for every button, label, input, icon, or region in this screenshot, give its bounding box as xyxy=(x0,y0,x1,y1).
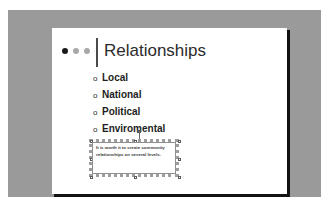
slide-bullet-list: o Local o National o Political o Envirom… xyxy=(93,71,273,139)
bullet-marker-icon: o xyxy=(93,106,102,119)
callout-text-box[interactable]: It is worth it to create community relat… xyxy=(92,142,176,174)
resize-handle-e[interactable] xyxy=(178,158,181,161)
screenshot-canvas: Relationships o Local o National o Polit… xyxy=(0,0,329,204)
page-title: Relationships xyxy=(104,41,206,61)
bullet-label-enviromental: Enviromental xyxy=(102,122,165,135)
resize-handle-sw[interactable] xyxy=(90,176,93,179)
list-item[interactable]: o Enviromental xyxy=(93,122,273,137)
title-dots-decoration xyxy=(62,48,90,54)
slide-title-block[interactable]: Relationships xyxy=(60,35,282,69)
callout-text-content: It is worth it to create community relat… xyxy=(96,145,173,158)
resize-handle-se[interactable] xyxy=(178,176,181,179)
bullet-label-national: National xyxy=(102,88,141,101)
title-divider-rule xyxy=(96,38,98,67)
list-item[interactable]: o Political xyxy=(93,105,273,120)
bullet-marker-icon: o xyxy=(93,72,102,85)
bullet-label-political: Political xyxy=(102,105,140,118)
title-dot-1-icon xyxy=(62,48,68,54)
title-dot-2-icon xyxy=(73,48,79,54)
resize-handle-ne[interactable] xyxy=(178,140,181,143)
bullet-marker-icon: o xyxy=(93,123,102,136)
bullet-marker-icon: o xyxy=(93,89,102,102)
title-dot-3-icon xyxy=(84,48,90,54)
presentation-slide[interactable]: Relationships o Local o National o Polit… xyxy=(52,28,287,194)
list-item[interactable]: o National xyxy=(93,88,273,103)
presentation-workspace: Relationships o Local o National o Polit… xyxy=(8,10,321,197)
list-item[interactable]: o Local xyxy=(93,71,273,86)
resize-handle-s[interactable] xyxy=(134,176,137,179)
bullet-label-local: Local xyxy=(102,71,128,84)
